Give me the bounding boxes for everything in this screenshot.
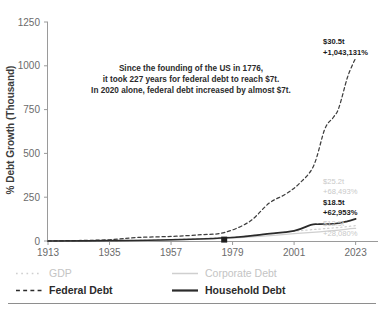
gdp-end-growth: +68,493% xyxy=(323,187,358,196)
y-axis-title: % Debt Growth (Thousand) xyxy=(5,66,16,195)
series-line-household-debt xyxy=(48,219,356,241)
legend-label-gdp: GDP xyxy=(49,267,72,279)
y-axis-group: % Debt Growth (Thousand) 025050075010001… xyxy=(5,17,48,247)
x-tick-label: 1957 xyxy=(160,247,183,258)
x-tick-label: 2023 xyxy=(345,247,368,258)
y-tick-label: 1250 xyxy=(18,17,41,28)
x-axis-group: 191319351957197920012023 xyxy=(37,241,378,258)
x-tick-label: 1979 xyxy=(221,247,244,258)
household-debt-end-value: $18.5t xyxy=(323,198,345,207)
legend-label-federal-debt: Federal Debt xyxy=(49,284,113,296)
x-tick-labels: 191319351957197920012023 xyxy=(37,241,367,258)
chart-canvas: % Debt Growth (Thousand) 025050075010001… xyxy=(0,0,384,315)
corporate-debt-end-value: $12.5t xyxy=(323,219,345,228)
y-tick-label: 250 xyxy=(23,192,40,203)
chart-annotation: Since the founding of the US in 1776, it… xyxy=(91,64,291,95)
y-tick-labels: 025050075010001250 xyxy=(18,17,48,247)
x-tick-label: 1913 xyxy=(37,247,60,258)
federal-debt-end-growth: +1,043,131% xyxy=(323,48,368,57)
data-marker xyxy=(221,237,227,243)
household-debt-end-growth: +62,953% xyxy=(323,208,358,217)
x-tick-label: 1935 xyxy=(98,247,121,258)
y-tick-label: 750 xyxy=(23,104,40,115)
corporate-debt-end-growth: +28,080% xyxy=(323,229,358,238)
x-tick-label: 2001 xyxy=(283,247,306,258)
gdp-end-value: $25.2t xyxy=(323,177,345,186)
y-tick-label: 1000 xyxy=(18,60,41,71)
annotation-line-2: it took 227 years for federal debt to re… xyxy=(103,75,280,84)
end-labels-group: $30.5t +1,043,131% $25.2t +68,493% $18.5… xyxy=(323,37,368,238)
federal-debt-1976-marker xyxy=(221,237,227,243)
legend-label-corporate-debt: Corporate Debt xyxy=(205,267,277,279)
annotation-line-1: Since the founding of the US in 1776, xyxy=(119,64,263,73)
y-tick-label: 0 xyxy=(34,236,40,247)
y-tick-label: 500 xyxy=(23,148,40,159)
federal-debt-end-value: $30.5t xyxy=(323,37,345,46)
legend-label-household-debt: Household Debt xyxy=(205,284,286,296)
chart-legend: GDPCorporate DebtFederal DebtHousehold D… xyxy=(16,267,286,296)
debt-growth-chart: % Debt Growth (Thousand) 025050075010001… xyxy=(0,0,384,315)
annotation-line-3: In 2020 alone, federal debt increased by… xyxy=(91,86,291,95)
